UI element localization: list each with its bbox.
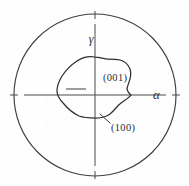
closed-contour-icon xyxy=(57,57,131,118)
stereographic-figure: γ α (001) (100) xyxy=(0,0,189,186)
figure-canvas: γ α (001) (100) xyxy=(0,0,189,186)
gamma-axis-label: γ xyxy=(89,32,94,46)
alpha-axis-label: α xyxy=(153,87,161,102)
plane-label-100: (100) xyxy=(111,122,135,134)
plane-label-001: (001) xyxy=(103,72,127,84)
